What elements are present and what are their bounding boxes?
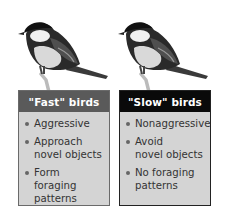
panel-title: "Slow" birds xyxy=(120,91,210,112)
slow-birds-panel: "Slow" birds Nonaggressive Avoid novel o… xyxy=(119,90,211,206)
list-item: Nonaggressive xyxy=(125,117,206,130)
trait-list: Nonaggressive Avoid novel objects No for… xyxy=(120,112,210,192)
bullet-icon xyxy=(25,122,29,126)
bird-illustration-slow xyxy=(114,14,214,96)
panel-title: "Fast" birds xyxy=(19,91,109,112)
list-item: Avoid novel objects xyxy=(125,135,206,161)
list-item: Form foraging patterns xyxy=(24,166,105,205)
great-tit-bird-icon xyxy=(118,22,208,96)
bird-illustration-fast xyxy=(14,14,114,96)
bullet-icon xyxy=(25,140,29,144)
bullet-icon xyxy=(25,171,29,175)
bullet-icon xyxy=(126,140,130,144)
list-item: Approach novel objects xyxy=(24,135,105,161)
list-item: Aggressive xyxy=(24,117,105,130)
bullet-icon xyxy=(126,122,130,126)
fast-birds-panel: "Fast" birds Aggressive Approach novel o… xyxy=(18,90,110,206)
bullet-icon xyxy=(126,171,130,175)
great-tit-bird-icon xyxy=(18,22,108,96)
list-item: No foraging patterns xyxy=(125,166,206,192)
trait-list: Aggressive Approach novel objects Form f… xyxy=(19,112,109,205)
